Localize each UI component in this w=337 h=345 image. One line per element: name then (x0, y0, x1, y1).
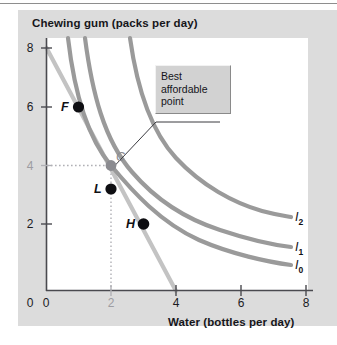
y-tick-label-2: 2 (20, 217, 40, 231)
curve-label-i0: I0 (295, 258, 303, 275)
x-tick-label-4: 4 (166, 296, 186, 310)
y-tick-label-8: 8 (20, 41, 40, 55)
y-tick-label-6: 6 (20, 100, 40, 114)
data-point-label-h: H (126, 217, 135, 231)
data-point-label-f: F (61, 100, 69, 114)
callout-line-2: affordable (161, 83, 225, 96)
x-tick-label-6: 6 (231, 296, 251, 310)
callout-line-3: point (161, 95, 225, 108)
data-point-c-marker (106, 160, 117, 171)
curve-label-i1: I1 (295, 240, 303, 257)
curve-label-i0-subscript: 0 (298, 265, 303, 275)
x-tick-label-2: 2 (101, 296, 121, 310)
data-point-label-l: L (94, 182, 102, 196)
curve-label-i2-subscript: 2 (298, 217, 303, 227)
data-point-f-marker (73, 101, 84, 112)
y-tick-label-4: 4 (20, 159, 40, 173)
figure-container: Chewing gum (packs per day) Water (bottl… (0, 0, 337, 345)
best-affordable-point-callout: Best affordable point (155, 65, 231, 114)
data-point-h-marker (138, 218, 150, 230)
x-tick-label-0: 0 (36, 296, 56, 310)
y-axis-title: Chewing gum (packs per day) (32, 17, 198, 29)
x-axis-title: Water (bottles per day) (168, 316, 294, 328)
indifference-curve-chart (0, 0, 337, 345)
x-tick-label-8: 8 (296, 296, 316, 310)
data-point-label-c: C (116, 150, 125, 164)
curve-label-i1-subscript: 1 (298, 247, 303, 257)
data-point-l-marker (105, 183, 116, 194)
callout-line-1: Best (161, 70, 225, 83)
curve-label-i2: I2 (295, 210, 303, 227)
